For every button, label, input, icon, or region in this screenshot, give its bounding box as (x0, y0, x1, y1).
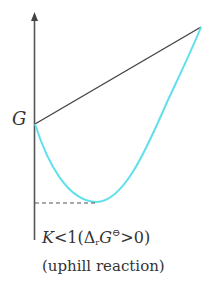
k-symbol: K (42, 228, 54, 247)
reactant-product-line (35, 27, 201, 124)
y-axis-label: G (12, 108, 26, 129)
y-axis-arrow-icon (31, 12, 38, 21)
reaction-caption: (uphill reaction) (42, 257, 165, 275)
delta-symbol: Δ (84, 228, 96, 247)
equilibrium-condition-label: K<1(ΔrG⊖>0) (42, 227, 150, 247)
gibbs-energy-curve (35, 27, 201, 202)
condition-tail: >0) (120, 228, 150, 247)
relation-text: <1( (54, 228, 84, 247)
g-symbol: G (99, 228, 112, 247)
